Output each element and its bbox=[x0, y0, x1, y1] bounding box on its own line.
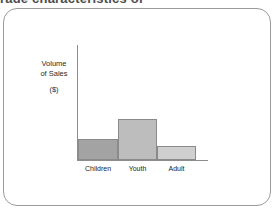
x-tick-label-youth: Youth bbox=[118, 165, 157, 172]
x-axis-line bbox=[77, 160, 208, 161]
bar-youth bbox=[118, 119, 157, 160]
bar-adult bbox=[157, 146, 196, 160]
bar-chart: Volume of Sales ($) Children Youth Adult bbox=[0, 0, 277, 208]
y-axis-title-line2: of Sales bbox=[30, 69, 78, 79]
x-tick-label-children: Children bbox=[78, 165, 118, 172]
bar-children bbox=[78, 139, 118, 160]
y-axis-title: Volume of Sales ($) bbox=[30, 59, 78, 95]
x-tick-label-adult: Adult bbox=[157, 165, 196, 172]
y-axis-units: ($) bbox=[30, 85, 78, 95]
y-axis-title-line1: Volume bbox=[30, 59, 78, 69]
